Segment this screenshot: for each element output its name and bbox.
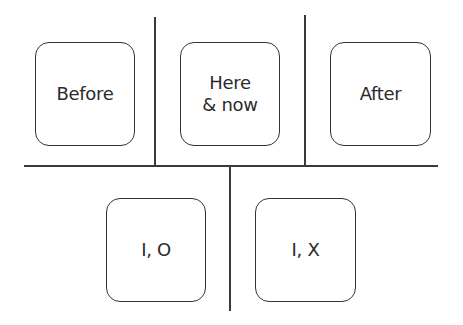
box-label: After: [360, 83, 402, 105]
box-after: After: [330, 42, 431, 146]
box-i-x: I, X: [255, 198, 356, 302]
vertical-divider-bottom: [229, 165, 231, 311]
box-label: Here & now: [202, 72, 257, 116]
box-label: I, X: [292, 239, 320, 261]
box-i-o: I, O: [106, 198, 206, 302]
vertical-divider-top-right: [304, 15, 306, 166]
vertical-divider-top-left: [154, 17, 156, 166]
box-here-and-now: Here & now: [180, 42, 280, 146]
box-label: Before: [56, 83, 113, 105]
box-label: I, O: [141, 239, 171, 261]
box-before: Before: [35, 42, 135, 146]
horizontal-divider: [24, 165, 438, 167]
